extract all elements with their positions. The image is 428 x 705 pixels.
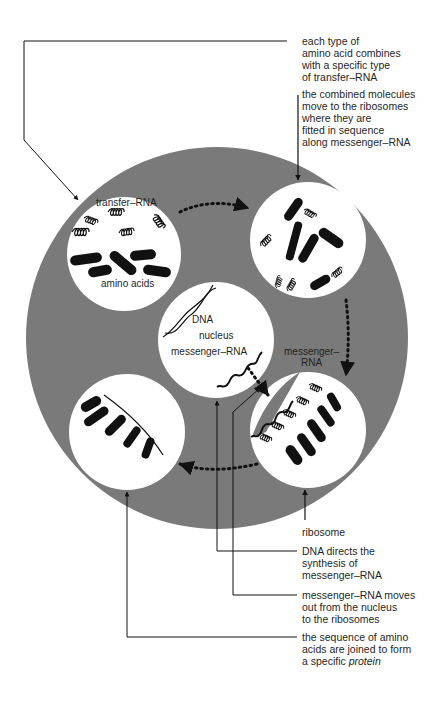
annotation-combined-move: the combined molecules move to the ribos… — [302, 88, 415, 148]
annotation-line: synthesis of — [302, 557, 382, 569]
annotation-amino-acid-combines: each type of amino acid combines with a … — [302, 35, 401, 83]
label-nucleus: nucleus — [199, 330, 233, 341]
annotation-mrna-moves: messenger–RNA moves out from the nucleus… — [302, 589, 415, 625]
annotation-line: acids are joined to form — [302, 643, 411, 655]
annotation-line: fitted in sequence — [302, 124, 415, 136]
label-transfer-rna: transfer–RNA — [96, 197, 157, 208]
label-dna: DNA — [192, 314, 213, 325]
annotation-line: where they are — [302, 112, 415, 124]
annotation-protein: the sequence of amino acids are joined t… — [302, 631, 411, 667]
label-ribosome-mrna-line2: RNA — [284, 357, 339, 368]
annotation-line: messenger–RNA — [302, 569, 382, 581]
annotation-line: each type of — [302, 35, 401, 47]
annotation-line: ribosome — [302, 526, 345, 538]
stage-circle-protein — [69, 374, 185, 490]
annotation-line: the sequence of amino — [302, 631, 411, 643]
annotation-line: out from the nucleus — [302, 601, 415, 613]
label-ribosome-mrna: messenger– RNA — [284, 346, 339, 368]
annotation-line: with a specific type — [302, 59, 401, 71]
annotation-line: to the ribosomes — [302, 613, 415, 625]
annotation-line: move to the ribosomes — [302, 100, 415, 112]
annotation-line: a specific protein — [302, 655, 411, 667]
annotation-line: along messenger–RNA — [302, 136, 415, 148]
annotation-line: of transfer–RNA — [302, 71, 401, 83]
annotation-text: a specific — [302, 655, 349, 667]
label-nucleus-mrna: messenger–RNA — [171, 346, 247, 357]
annotation-line: amino acid combines — [302, 47, 401, 59]
annotation-line: the combined molecules — [302, 88, 415, 100]
protein-term: protein — [349, 655, 381, 667]
stage-circle-ribosome — [250, 372, 366, 488]
annotation-dna-directs: DNA directs the synthesis of messenger–R… — [302, 545, 382, 581]
label-ribosome-mrna-line1: messenger– — [284, 346, 339, 357]
label-amino-acids: amino acids — [101, 278, 154, 289]
annotation-line: DNA directs the — [302, 545, 382, 557]
annotation-line: messenger–RNA moves — [302, 589, 415, 601]
stage-circle-transfer — [67, 197, 181, 311]
annotation-ribosome: ribosome — [302, 526, 345, 538]
